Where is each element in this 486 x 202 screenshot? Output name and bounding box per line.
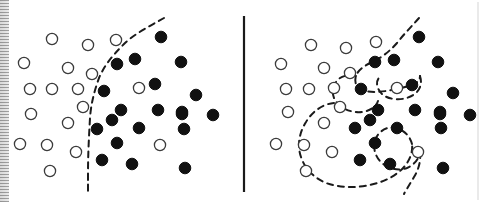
filled-marker-12 (434, 108, 446, 120)
open-marker-9 (133, 82, 144, 93)
filled-marker-3 (175, 56, 187, 68)
open-marker-13 (270, 138, 281, 149)
open-marker-0 (46, 33, 57, 44)
open-marker-5 (86, 68, 97, 79)
filled-marker-3 (432, 56, 444, 68)
open-marker-11 (77, 101, 88, 112)
filled-marker-19 (437, 162, 449, 174)
open-marker-11 (334, 101, 345, 112)
filled-marker-5 (149, 78, 161, 90)
filled-marker-4 (98, 85, 110, 97)
open-marker-2 (110, 34, 121, 45)
open-marker-4 (318, 62, 329, 73)
filled-marker-2 (129, 53, 141, 65)
open-marker-17 (44, 165, 55, 176)
filled-marker-2 (388, 54, 400, 66)
open-marker-2 (370, 36, 381, 47)
open-marker-3 (275, 58, 286, 69)
filled-marker-6 (447, 87, 459, 99)
open-marker-16 (154, 139, 165, 150)
filled-marker-10 (207, 109, 219, 121)
open-marker-10 (25, 108, 36, 119)
filled-marker-0 (413, 31, 425, 43)
scatter-figure-canvas (0, 0, 486, 202)
open-marker-12 (62, 117, 73, 128)
open-marker-17 (300, 165, 311, 176)
open-marker-3 (18, 57, 29, 68)
filled-marker-1 (369, 56, 381, 68)
open-marker-4 (62, 62, 73, 73)
filled-marker-7 (409, 104, 421, 116)
filled-marker-10 (464, 109, 476, 121)
filled-marker-17 (354, 154, 366, 166)
filled-marker-8 (372, 104, 384, 116)
filled-marker-19 (179, 162, 191, 174)
filled-marker-13 (349, 122, 361, 134)
open-marker-15 (70, 146, 81, 157)
open-marker-5 (344, 67, 355, 78)
filled-marker-14 (133, 122, 145, 134)
filled-marker-14 (391, 122, 403, 134)
open-marker-16 (412, 146, 423, 157)
open-marker-14 (41, 139, 52, 150)
open-marker-9 (391, 82, 402, 93)
open-marker-7 (303, 83, 314, 94)
filled-marker-17 (96, 154, 108, 166)
filled-marker-5 (406, 79, 418, 91)
filled-marker-16 (369, 137, 381, 149)
filled-marker-1 (111, 58, 123, 70)
open-marker-0 (305, 39, 316, 50)
open-marker-8 (328, 82, 339, 93)
filled-marker-18 (384, 158, 396, 170)
filled-marker-16 (111, 137, 123, 149)
open-marker-12 (318, 117, 329, 128)
filled-marker-11 (364, 114, 376, 126)
filled-marker-15 (435, 122, 447, 134)
open-marker-7 (46, 83, 57, 94)
open-marker-10 (282, 106, 293, 117)
filled-marker-6 (190, 89, 202, 101)
filled-marker-4 (355, 83, 367, 95)
filled-marker-0 (155, 31, 167, 43)
figure-root (0, 0, 486, 202)
open-marker-13 (14, 138, 25, 149)
open-marker-1 (340, 42, 351, 53)
open-marker-6 (280, 83, 291, 94)
filled-marker-12 (176, 108, 188, 120)
open-marker-1 (82, 39, 93, 50)
filled-marker-7 (152, 104, 164, 116)
filled-marker-8 (115, 104, 127, 116)
filled-marker-15 (178, 123, 190, 135)
open-marker-8 (72, 83, 83, 94)
open-marker-15 (326, 146, 337, 157)
filled-marker-18 (126, 158, 138, 170)
open-marker-6 (24, 83, 35, 94)
filled-marker-11 (106, 114, 118, 126)
filled-marker-13 (91, 123, 103, 135)
open-marker-14 (298, 139, 309, 150)
